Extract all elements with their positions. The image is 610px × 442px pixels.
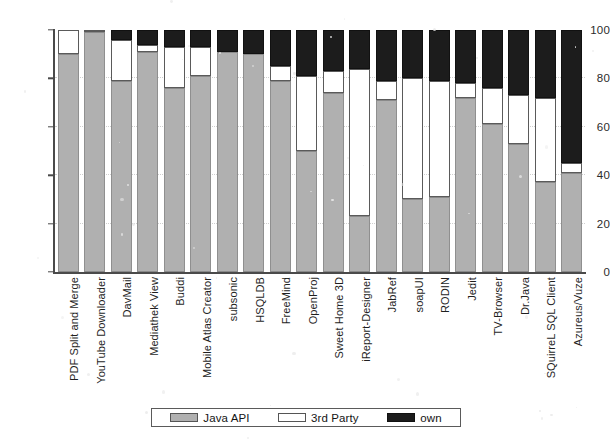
legend-item-java-api: Java API xyxy=(170,412,249,424)
bar-segment-third-party xyxy=(296,76,317,151)
bar-segment-java-api xyxy=(323,93,344,272)
y-axis-tick xyxy=(48,174,54,175)
bar-segment-java-api xyxy=(137,52,158,272)
bar-segment-third-party xyxy=(323,71,344,93)
bar-segment-third-party xyxy=(164,47,185,88)
bar-segment-java-api xyxy=(190,76,211,272)
bar-group xyxy=(376,30,397,272)
x-axis-tick-label: soapUI xyxy=(413,277,425,312)
x-axis-tick: Azureus/Vuze xyxy=(561,277,582,397)
x-axis-tick: soapUI xyxy=(402,277,423,397)
bar-segment-third-party xyxy=(535,98,556,183)
bar-group xyxy=(270,30,291,272)
bar-segment-own xyxy=(482,30,503,88)
bar-group xyxy=(84,30,105,272)
scan-speck xyxy=(344,18,346,20)
scan-speck xyxy=(576,407,577,408)
x-axis-tick: subsonic xyxy=(217,277,238,397)
bar-segment-java-api xyxy=(111,81,132,272)
bar-segment-third-party xyxy=(137,45,158,52)
bar-group xyxy=(243,30,264,272)
legend-swatch-gray-icon xyxy=(170,413,198,422)
bar-group xyxy=(323,30,344,272)
x-axis-tick-label: Jedit xyxy=(466,277,478,301)
bar-segment-third-party xyxy=(482,88,503,124)
x-axis-tick-label: Dr.Java xyxy=(519,277,531,315)
y-axis-tick xyxy=(48,78,54,79)
x-axis-tick-label: HSQLDB xyxy=(254,277,266,323)
bar-segment-own xyxy=(111,30,132,40)
bar-segment-java-api xyxy=(164,88,185,272)
scan-speck xyxy=(170,0,173,3)
x-axis-tick-label: RODIN xyxy=(439,277,451,313)
x-axis-tick-label: YouTube Downloader xyxy=(95,277,107,384)
bar-segment-own xyxy=(323,30,344,71)
bar-segment-java-api xyxy=(561,173,582,272)
y-axis-tick xyxy=(48,29,54,30)
x-axis-tick: Jedit xyxy=(455,277,476,397)
bar-group xyxy=(455,30,476,272)
scan-speck xyxy=(270,405,271,406)
x-axis-tick: JabRef xyxy=(376,277,397,397)
bar-segment-third-party xyxy=(190,47,211,76)
scan-speck xyxy=(550,414,552,416)
legend-item-own: own xyxy=(387,412,441,424)
x-axis-tick: PDF Split and Merge xyxy=(58,277,79,397)
bar-segment-third-party xyxy=(455,83,476,98)
scan-speck xyxy=(247,437,249,439)
x-axis-tick-label: TV-Browser xyxy=(492,277,504,335)
bar-segment-java-api xyxy=(402,199,423,272)
bar-segment-own xyxy=(535,30,556,98)
scan-speck xyxy=(24,90,27,93)
y-axis-tick xyxy=(48,126,54,127)
bar-group xyxy=(429,30,450,272)
x-axis-tick: Dr.Java xyxy=(508,277,529,397)
bar-segment-third-party xyxy=(349,69,370,217)
bar-segment-java-api xyxy=(535,182,556,272)
x-axis-tick: RODIN xyxy=(429,277,450,397)
bar-segment-third-party xyxy=(429,81,450,197)
bar-segment-own xyxy=(296,30,317,76)
bar-segment-third-party xyxy=(508,95,529,143)
x-axis-tick: YouTube Downloader xyxy=(84,277,105,397)
bar-segment-own xyxy=(243,30,264,54)
bar-group xyxy=(190,30,211,272)
bar-segment-java-api xyxy=(217,52,238,272)
x-axis-tick: SQuirreL SQL Client xyxy=(535,277,556,397)
bar-segment-java-api xyxy=(296,151,317,272)
legend-swatch-white-icon xyxy=(278,413,306,422)
y-axis-tick xyxy=(48,271,54,272)
bar-segment-third-party xyxy=(561,163,582,173)
legend-swatch-black-icon xyxy=(387,413,415,422)
x-axis-tick: HSQLDB xyxy=(243,277,264,397)
bar-group xyxy=(217,30,238,272)
bar-group xyxy=(402,30,423,272)
x-axis-tick: Buddi xyxy=(164,277,185,397)
bar-segment-own xyxy=(270,30,291,66)
bar-group xyxy=(482,30,503,272)
x-axis-tick-label: SQuirreL SQL Client xyxy=(545,277,557,378)
bar-segment-java-api xyxy=(482,124,503,272)
x-axis-line xyxy=(53,272,586,274)
bar-group xyxy=(137,30,158,272)
legend-item-third-party: 3rd Party xyxy=(278,412,359,424)
legend-label-third-party: 3rd Party xyxy=(311,412,359,424)
bar-segment-java-api xyxy=(58,54,79,272)
scan-speck xyxy=(397,378,400,381)
scan-speck xyxy=(541,417,543,419)
x-axis-tick-label: Buddi xyxy=(174,277,186,306)
bar-group xyxy=(535,30,556,272)
bar-segment-java-api xyxy=(349,216,370,272)
x-axis-tick: Mediathek View xyxy=(137,277,158,397)
x-axis-tick: iReport-Designer xyxy=(349,277,370,397)
bar-segment-java-api xyxy=(376,100,397,272)
bar-segment-third-party xyxy=(111,40,132,81)
bar-segment-java-api xyxy=(429,197,450,272)
bar-group xyxy=(111,30,132,272)
x-axis-tick: DavMail xyxy=(111,277,132,397)
x-axis-tick-label: Mobile Atlas Creator xyxy=(201,277,213,378)
bar-segment-own xyxy=(137,30,158,45)
bar-segment-own xyxy=(429,30,450,81)
bar-segment-third-party xyxy=(376,81,397,100)
x-axis-tick-label: subsonic xyxy=(227,277,239,321)
